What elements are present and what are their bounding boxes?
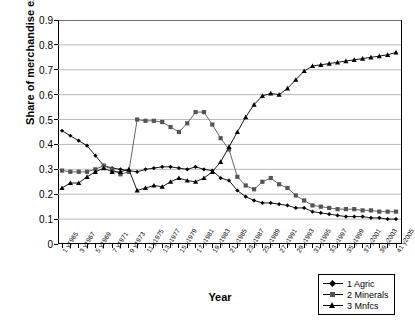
data-point bbox=[219, 136, 223, 140]
data-point bbox=[243, 114, 248, 119]
data-point bbox=[77, 139, 81, 143]
x-tick-mark bbox=[237, 244, 238, 248]
data-point bbox=[152, 119, 156, 123]
data-point bbox=[277, 202, 281, 206]
data-point bbox=[394, 217, 398, 221]
x-tick-mark bbox=[320, 244, 321, 248]
legend-item-mnfcs: 3 Mnfcs bbox=[322, 300, 389, 311]
chart-svg bbox=[58, 20, 402, 244]
data-point bbox=[202, 110, 206, 114]
data-point bbox=[252, 187, 256, 191]
y-tick-label: 0.4 bbox=[23, 139, 53, 150]
data-point bbox=[294, 206, 298, 210]
data-point bbox=[302, 198, 306, 202]
x-tick-mark bbox=[120, 244, 121, 248]
data-point bbox=[143, 167, 147, 171]
data-point bbox=[268, 91, 273, 96]
data-point bbox=[393, 50, 398, 55]
data-point bbox=[352, 207, 356, 211]
y-tick-label: 0.5 bbox=[23, 114, 53, 125]
x-tick-mark bbox=[153, 244, 154, 248]
series-line-minerals bbox=[62, 112, 396, 212]
x-tick-mark bbox=[337, 244, 338, 248]
diamond-marker-icon bbox=[322, 278, 344, 289]
x-tick-mark bbox=[370, 244, 371, 248]
data-point bbox=[394, 210, 398, 214]
data-point bbox=[176, 175, 181, 180]
y-tick-label: 0.9 bbox=[23, 15, 53, 26]
y-tick-label: 0 bbox=[23, 239, 53, 250]
data-point bbox=[60, 129, 64, 133]
data-point bbox=[335, 213, 339, 217]
data-point bbox=[143, 119, 147, 123]
x-tick-mark bbox=[254, 244, 255, 248]
data-point bbox=[135, 117, 139, 121]
data-point bbox=[160, 120, 164, 124]
square-marker-icon bbox=[322, 289, 344, 300]
data-point bbox=[168, 125, 172, 129]
y-tick-label: 0.7 bbox=[23, 64, 53, 75]
data-point bbox=[235, 129, 240, 134]
data-point bbox=[344, 215, 348, 219]
y-tick-mark bbox=[54, 94, 58, 95]
data-point bbox=[168, 165, 172, 169]
x-tick-mark bbox=[70, 244, 71, 248]
data-point bbox=[85, 170, 89, 174]
data-point bbox=[59, 185, 64, 190]
x-tick-mark bbox=[354, 244, 355, 248]
data-point bbox=[310, 210, 314, 214]
data-point bbox=[194, 165, 198, 169]
data-point bbox=[269, 176, 273, 180]
x-tick-mark bbox=[270, 244, 271, 248]
data-point bbox=[310, 203, 314, 207]
data-point bbox=[294, 193, 298, 197]
data-point bbox=[319, 205, 323, 209]
data-point bbox=[68, 170, 72, 174]
y-tick-mark bbox=[54, 144, 58, 145]
data-point bbox=[244, 183, 248, 187]
data-point bbox=[327, 212, 331, 216]
data-point bbox=[335, 207, 339, 211]
x-tick-mark bbox=[103, 244, 104, 248]
data-point bbox=[77, 170, 81, 174]
data-point bbox=[68, 134, 72, 138]
y-tick-mark bbox=[54, 194, 58, 195]
data-point bbox=[369, 208, 373, 212]
data-point bbox=[235, 175, 239, 179]
data-point bbox=[135, 170, 139, 174]
data-point bbox=[285, 203, 289, 207]
data-point bbox=[185, 121, 189, 125]
data-point bbox=[386, 210, 390, 214]
plot-area: 00.10.20.30.40.50.60.70.80.9 1 y19653 y1… bbox=[58, 20, 402, 244]
legend-label: 2 Minerals bbox=[347, 290, 389, 300]
legend-label: 1 Agric bbox=[347, 279, 375, 289]
data-point bbox=[168, 179, 173, 184]
data-point bbox=[84, 174, 89, 179]
data-point bbox=[277, 182, 281, 186]
x-tick-mark bbox=[187, 244, 188, 248]
data-point bbox=[377, 210, 381, 214]
data-point bbox=[260, 180, 264, 184]
data-point bbox=[269, 201, 273, 205]
x-tick-mark bbox=[170, 244, 171, 248]
x-tick-mark bbox=[137, 244, 138, 248]
triangle-marker-icon bbox=[322, 300, 344, 311]
data-point bbox=[352, 215, 356, 219]
data-point bbox=[194, 110, 198, 114]
data-point bbox=[210, 122, 214, 126]
data-point bbox=[252, 198, 256, 202]
y-tick-label: 0.2 bbox=[23, 189, 53, 200]
y-tick-label: 0.3 bbox=[23, 164, 53, 175]
y-tick-label: 0.1 bbox=[23, 214, 53, 225]
data-point bbox=[302, 206, 306, 210]
data-point bbox=[361, 208, 365, 212]
data-point bbox=[302, 68, 307, 73]
data-point bbox=[327, 206, 331, 210]
data-point bbox=[160, 165, 164, 169]
y-tick-mark bbox=[54, 169, 58, 170]
data-point bbox=[60, 168, 64, 172]
data-point bbox=[151, 183, 156, 188]
x-tick-mark bbox=[203, 244, 204, 248]
x-tick-mark bbox=[220, 244, 221, 248]
